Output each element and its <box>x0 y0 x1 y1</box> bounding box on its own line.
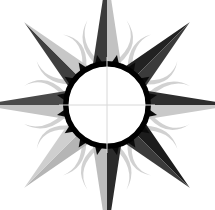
emblem-canvas <box>0 0 215 210</box>
sun-compass-rose-graphic <box>0 0 215 210</box>
